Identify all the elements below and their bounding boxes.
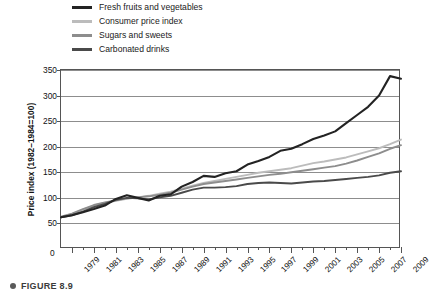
x-tick-label-1991: 1991 — [214, 255, 233, 274]
x-tick-label-2001: 2001 — [324, 255, 343, 274]
legend-label-2: Sugars and sweets — [99, 28, 172, 42]
x-tick-label-2003: 2003 — [346, 255, 365, 274]
y-tick-label-50: 50 — [48, 218, 57, 228]
legend-swatch-icon-0 — [72, 6, 92, 9]
legend-label-3: Carbonated drinks — [99, 42, 169, 56]
y-tick-label-250: 250 — [43, 116, 57, 126]
x-tick-label-1989: 1989 — [192, 255, 211, 274]
x-tick-label-2007: 2007 — [389, 255, 408, 274]
legend-item-sugars-and-sweets: Sugars and sweets — [72, 28, 203, 42]
legend-item-consumer-price-index: Consumer price index — [72, 14, 203, 28]
x-tick-label-2009: 2009 — [411, 255, 430, 274]
y-tick-label-100: 100 — [43, 193, 57, 203]
figure-container: Fresh fruits and vegetables Consumer pri… — [0, 0, 432, 300]
x-tick-label-1981: 1981 — [104, 255, 123, 274]
y-tick-label-300: 300 — [43, 91, 57, 101]
y-axis-title: Price index (1982–1984=100) — [23, 70, 39, 249]
legend-item-carbonated-drinks: Carbonated drinks — [72, 42, 203, 56]
y-tick-label-350: 350 — [43, 65, 57, 75]
y-tick-label-150: 150 — [43, 167, 57, 177]
legend-item-fresh-fruits-and-vegetables: Fresh fruits and vegetables — [72, 0, 203, 14]
figure-caption-text: FIGURE 8.9 — [21, 281, 73, 291]
legend-swatch-icon-3 — [72, 48, 92, 51]
x-tick-label-1999: 1999 — [302, 255, 321, 274]
series-line-fresh-fruits-and-vegetables — [61, 76, 401, 217]
legend-label-0: Fresh fruits and vegetables — [99, 0, 203, 14]
legend-label-1: Consumer price index — [99, 14, 183, 28]
x-tick-label-2005: 2005 — [367, 255, 386, 274]
figure-caption: FIGURE 8.9 — [10, 281, 73, 291]
x-tick-label-1985: 1985 — [148, 255, 167, 274]
y-tick-label-200: 200 — [43, 142, 57, 152]
x-tick-mark-2009 — [401, 247, 402, 253]
legend-swatch-icon-1 — [72, 20, 92, 23]
x-axis-origin-label: 0 — [50, 248, 55, 258]
x-tick-label-1979: 1979 — [82, 255, 101, 274]
x-tick-label-1987: 1987 — [170, 255, 189, 274]
series-lines — [61, 70, 401, 249]
plot-area: Price index (1982–1984=100) 501001502002… — [60, 69, 400, 248]
bullet-icon — [10, 283, 16, 289]
x-tick-label-1993: 1993 — [236, 255, 255, 274]
x-tick-label-1983: 1983 — [126, 255, 145, 274]
x-tick-label-1995: 1995 — [258, 255, 277, 274]
chart-legend: Fresh fruits and vegetables Consumer pri… — [72, 0, 203, 56]
x-tick-label-1997: 1997 — [280, 255, 299, 274]
legend-swatch-icon-2 — [72, 34, 92, 37]
